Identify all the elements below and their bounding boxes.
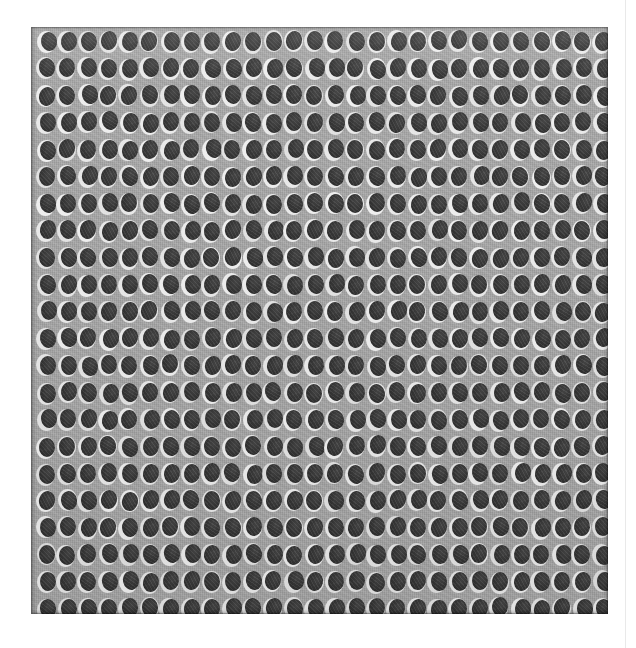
- plate-hole: [221, 463, 240, 485]
- plate-hole: [36, 85, 55, 107]
- plate-hole: [510, 247, 529, 269]
- plate-hole: [181, 221, 200, 243]
- plate-hole: [511, 328, 530, 350]
- plate-hole: [572, 382, 591, 404]
- hole-aperture: [535, 86, 551, 105]
- plate-hole: [573, 490, 592, 512]
- plate-hole: [57, 301, 76, 323]
- hole-aperture: [60, 112, 78, 133]
- plate-hole: [511, 192, 530, 214]
- plate-hole: [470, 490, 489, 512]
- hole-aperture: [267, 302, 284, 321]
- plate-hole: [448, 138, 467, 160]
- plate-hole: [161, 408, 180, 430]
- hole-aperture: [554, 112, 570, 131]
- plate-hole: [551, 193, 570, 215]
- plate-hole: [407, 517, 426, 539]
- plate-hole: [325, 58, 344, 80]
- plate-hole: [58, 381, 77, 403]
- plate-hole: [448, 58, 467, 80]
- plate-hole: [531, 598, 550, 614]
- hole-aperture: [575, 57, 592, 77]
- plate-hole: [552, 302, 571, 324]
- plate-hole: [243, 489, 262, 511]
- hole-aperture: [183, 329, 201, 349]
- plate-hole: [140, 167, 159, 189]
- hole-aperture: [39, 517, 57, 537]
- hole-aperture: [369, 141, 385, 160]
- plate-hole: [202, 327, 221, 349]
- plate-hole: [222, 112, 241, 134]
- plate-hole: [428, 274, 447, 296]
- plate-hole: [427, 113, 446, 135]
- plate-hole: [180, 85, 199, 107]
- plate-hole: [448, 382, 467, 404]
- plate-hole: [284, 382, 303, 404]
- plate-hole: [180, 112, 199, 134]
- hole-aperture: [512, 490, 530, 510]
- plate-hole: [118, 84, 137, 106]
- plate-hole: [573, 84, 592, 106]
- plate-hole: [78, 598, 97, 614]
- plate-hole: [181, 165, 200, 187]
- plate-hole: [427, 85, 446, 107]
- hole-aperture: [244, 597, 263, 614]
- plate-hole: [243, 302, 262, 324]
- plate-hole: [78, 382, 97, 404]
- plate-hole: [223, 58, 242, 80]
- plate-hole: [551, 437, 570, 459]
- plate-hole: [98, 166, 117, 188]
- plate-hole: [324, 31, 343, 53]
- plate-hole: [180, 516, 199, 538]
- hole-aperture: [287, 438, 304, 458]
- hole-aperture: [141, 139, 159, 160]
- hole-aperture: [288, 139, 304, 158]
- hole-aperture: [575, 302, 591, 321]
- plate-hole: [37, 383, 56, 405]
- plate-hole: [366, 221, 385, 243]
- plate-hole: [263, 328, 282, 350]
- plate-hole: [98, 598, 117, 614]
- plate-hole: [118, 463, 137, 485]
- hole-aperture: [410, 194, 429, 215]
- plate-hole: [592, 32, 608, 54]
- plate-hole: [324, 462, 343, 484]
- plate-hole: [140, 436, 159, 458]
- plate-hole: [284, 571, 303, 593]
- plate-hole: [325, 248, 344, 270]
- plate-hole: [346, 490, 365, 512]
- plate-hole: [408, 194, 427, 216]
- plate-hole: [58, 355, 77, 377]
- plate-hole: [366, 545, 385, 567]
- plate-hole: [325, 598, 344, 614]
- plate-hole: [572, 165, 591, 187]
- plate-hole: [284, 597, 303, 614]
- plate-hole: [510, 85, 529, 107]
- hole-aperture: [512, 409, 529, 429]
- hole-aperture: [533, 273, 551, 294]
- hole-aperture: [121, 517, 139, 537]
- plate-hole: [36, 220, 55, 242]
- hole-aperture: [450, 58, 468, 79]
- plate-hole: [263, 84, 282, 106]
- plate-hole: [490, 516, 509, 538]
- plate-hole: [592, 463, 608, 485]
- plate-hole: [449, 517, 468, 539]
- plate-hole: [427, 166, 446, 188]
- plate-hole: [366, 517, 385, 539]
- hole-aperture: [410, 58, 428, 78]
- plate-hole: [304, 166, 323, 188]
- plate-hole: [222, 167, 241, 189]
- plate-hole: [160, 489, 179, 511]
- plate-hole: [118, 275, 137, 297]
- plate-hole: [489, 166, 508, 188]
- plate-hole: [530, 408, 549, 430]
- plate-hole: [449, 544, 468, 566]
- plate-hole: [387, 436, 406, 458]
- plate-hole: [57, 165, 76, 187]
- plate-hole: [468, 328, 487, 350]
- plate-hole: [489, 463, 508, 485]
- plate-hole: [161, 301, 180, 323]
- plate-hole: [593, 86, 608, 108]
- plate-hole: [181, 571, 200, 593]
